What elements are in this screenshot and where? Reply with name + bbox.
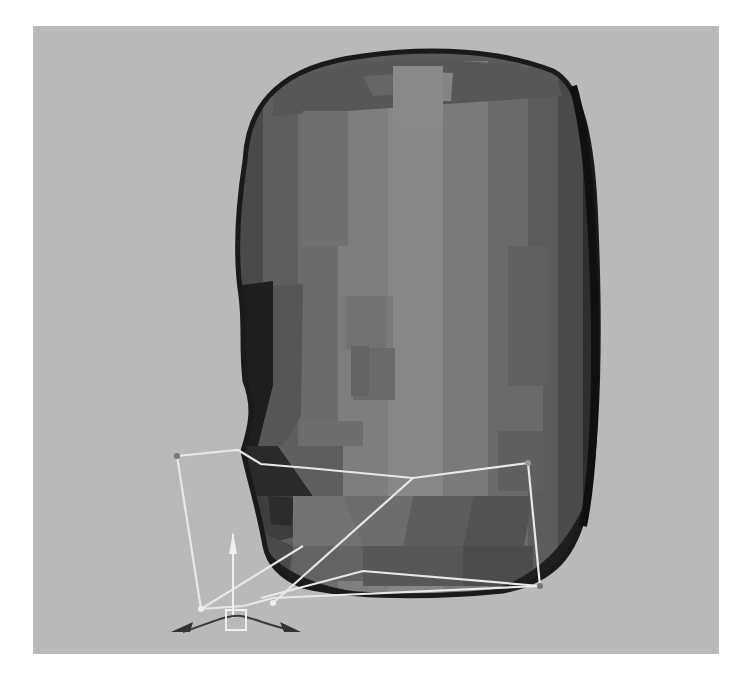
y-axis-arrow-icon[interactable]	[229, 532, 237, 554]
3d-viewport[interactable]: 3D perspective viewport	[33, 26, 719, 654]
lattice-point[interactable]	[525, 460, 531, 466]
viewport-canvas[interactable]	[33, 26, 719, 654]
center-handle[interactable]	[226, 610, 246, 630]
x-axis-arrow-icon[interactable]	[171, 622, 193, 632]
z-axis-arrow-icon[interactable]	[280, 622, 301, 632]
lattice-point[interactable]	[270, 600, 276, 606]
head-mesh[interactable]	[233, 26, 603, 646]
lattice-point[interactable]	[174, 453, 180, 459]
lattice-point[interactable]	[537, 583, 543, 589]
lattice-point[interactable]	[198, 606, 204, 612]
